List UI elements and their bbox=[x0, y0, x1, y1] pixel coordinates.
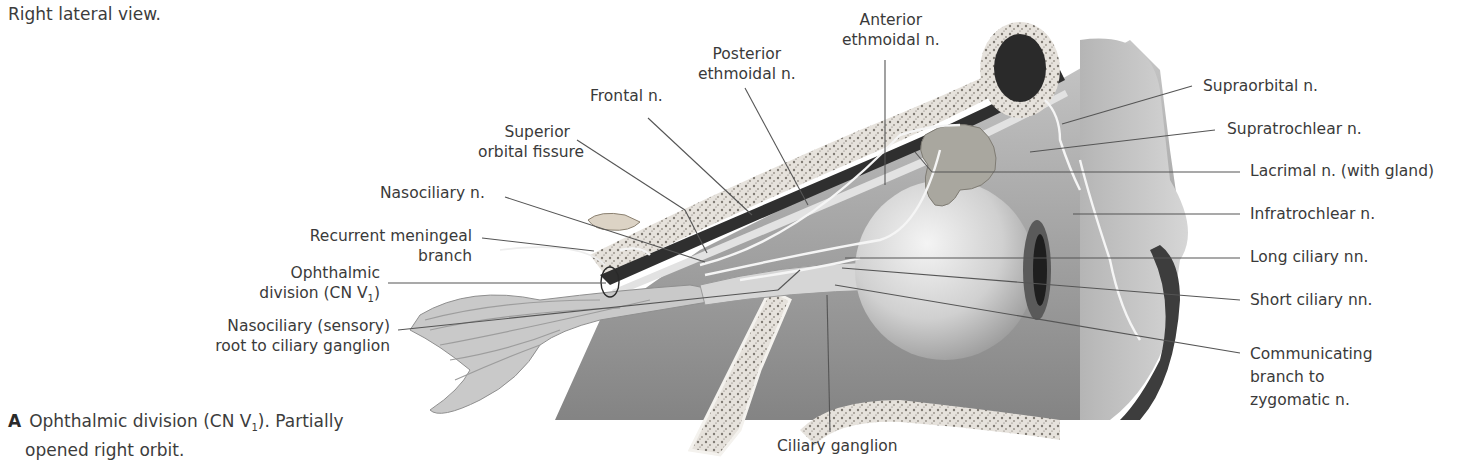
label-line: ethmoidal n. bbox=[842, 30, 940, 50]
caption-line2: opened right orbit. bbox=[8, 439, 348, 461]
label-line: root to ciliary ganglion bbox=[160, 336, 390, 356]
label-communicating-branch: Communicating branch to zygomatic n. bbox=[1250, 343, 1373, 412]
label-ciliary-ganglion: Ciliary ganglion bbox=[777, 436, 898, 456]
label-nasociliary-sensory-root: Nasociliary (sensory) root to ciliary ga… bbox=[160, 316, 390, 356]
label-line: Recurrent meningeal bbox=[280, 226, 472, 246]
label-line: Ophthalmic bbox=[228, 263, 380, 283]
label-line: ethmoidal n. bbox=[698, 64, 796, 84]
caption-line1-pre: Ophthalmic division (CN V bbox=[29, 411, 251, 431]
caption-letter: A bbox=[8, 411, 21, 431]
label-line: Posterior bbox=[698, 44, 796, 64]
label-line: Superior bbox=[478, 122, 570, 142]
label-superior-orbital-fissure: Superior orbital fissure bbox=[478, 122, 570, 162]
figure-caption: AOphthalmic division (CN V1). Partially … bbox=[8, 410, 348, 461]
label-line: orbital fissure bbox=[478, 142, 570, 162]
label-ophthalmic-division: Ophthalmic division (CN V1) bbox=[228, 263, 380, 309]
caption-line1-post: ). Partially bbox=[258, 411, 344, 431]
label-text: division (CN V bbox=[259, 284, 367, 302]
figure-subtitle: Right lateral view. bbox=[8, 4, 161, 24]
label-line: Communicating bbox=[1250, 343, 1373, 366]
label-infratrochlear-n: Infratrochlear n. bbox=[1250, 204, 1375, 224]
label-supraorbital-n: Supraorbital n. bbox=[1203, 76, 1318, 96]
label-line: branch to bbox=[1250, 366, 1373, 389]
label-long-ciliary-nn: Long ciliary nn. bbox=[1250, 247, 1368, 267]
label-text: ) bbox=[374, 284, 380, 302]
label-line: zygomatic n. bbox=[1250, 389, 1373, 412]
label-frontal-n: Frontal n. bbox=[590, 86, 663, 106]
label-recurrent-meningeal-branch: Recurrent meningeal branch bbox=[280, 226, 472, 266]
label-lacrimal-n: Lacrimal n. (with gland) bbox=[1250, 161, 1434, 181]
label-nasociliary-n: Nasociliary n. bbox=[380, 183, 485, 203]
label-short-ciliary-nn: Short ciliary nn. bbox=[1250, 290, 1373, 310]
label-line: Anterior bbox=[842, 10, 940, 30]
label-line: Nasociliary (sensory) bbox=[160, 316, 390, 336]
label-anterior-ethmoidal-n: Anterior ethmoidal n. bbox=[842, 10, 940, 50]
label-line: division (CN V1) bbox=[228, 283, 380, 309]
label-supratrochlear-n: Supratrochlear n. bbox=[1227, 119, 1362, 139]
label-posterior-ethmoidal-n: Posterior ethmoidal n. bbox=[698, 44, 796, 84]
